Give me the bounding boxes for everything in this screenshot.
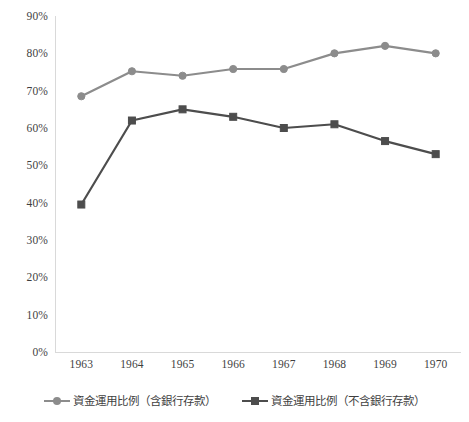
square-marker [128,117,135,124]
legend-label: 資金運用比例（含銀行存款） [73,394,216,408]
square-marker [230,113,237,120]
square-marker [331,121,338,128]
legend-swatch [242,395,268,407]
x-axis-tick-label: 1963 [70,357,93,371]
square-marker [382,138,389,145]
x-axis-tick-label: 1967 [272,357,295,371]
square-marker [179,106,186,113]
x-axis: 19631964196519661967196819691970 [56,357,461,375]
circle-marker [230,65,237,72]
circle-marker [179,72,186,79]
circle-marker [432,50,439,57]
x-axis-tick-label: 1966 [221,357,244,371]
x-axis-tick-label: 1968 [323,357,346,371]
square-marker [251,397,259,405]
legend-swatch [44,395,70,407]
circle-marker [331,50,338,57]
square-marker [78,201,85,208]
x-axis-tick-label: 1965 [171,357,194,371]
circle-marker [280,65,287,72]
circle-marker [128,68,135,75]
line-chart: 90%80%70%60%50%40%30%20%10%0% 1963196419… [0,0,469,422]
circle-marker [381,42,388,49]
circle-marker [78,93,85,100]
series-1 [78,42,440,100]
x-axis-tick-label: 1970 [424,357,447,371]
circle-marker [53,397,61,405]
x-axis-tick-label: 1964 [120,357,143,371]
legend-label: 資金運用比例（不含銀行存款） [271,394,425,408]
square-marker [432,151,439,158]
series-2 [78,106,439,208]
chart-legend: 資金運用比例（含銀行存款）資金運用比例（不含銀行存款） [0,390,469,412]
x-axis-tick-label: 1969 [373,357,396,371]
square-marker [280,125,287,132]
legend-item[interactable]: 資金運用比例（含銀行存款） [44,394,216,408]
legend-item[interactable]: 資金運用比例（不含銀行存款） [242,394,425,408]
